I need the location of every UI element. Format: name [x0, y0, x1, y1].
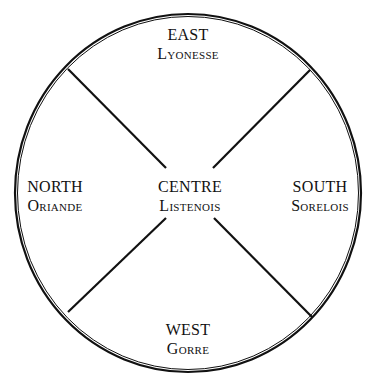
divider-lower-left	[68, 218, 166, 312]
divider-lower-right	[214, 218, 312, 317]
region-centre-name: Listenois	[158, 198, 222, 214]
region-north: NORTH Oriande	[27, 179, 83, 214]
region-west-name: Gorre	[166, 341, 211, 357]
region-west-direction: WEST	[166, 322, 211, 338]
region-south-direction: SOUTH	[291, 179, 349, 195]
region-north-name: Oriande	[27, 198, 83, 214]
region-centre-direction: CENTRE	[158, 179, 222, 195]
region-south-name: Sorelois	[291, 198, 349, 214]
region-centre: CENTRE Listenois	[158, 179, 222, 214]
region-east-name: Lyonesse	[157, 46, 219, 62]
region-south: SOUTH Sorelois	[291, 179, 349, 214]
region-east: EAST Lyonesse	[157, 27, 219, 62]
divider-upper-right	[213, 70, 310, 168]
region-east-direction: EAST	[157, 27, 219, 43]
divider-upper-left	[68, 69, 166, 168]
region-west: WEST Gorre	[166, 322, 211, 357]
region-north-direction: NORTH	[27, 179, 83, 195]
